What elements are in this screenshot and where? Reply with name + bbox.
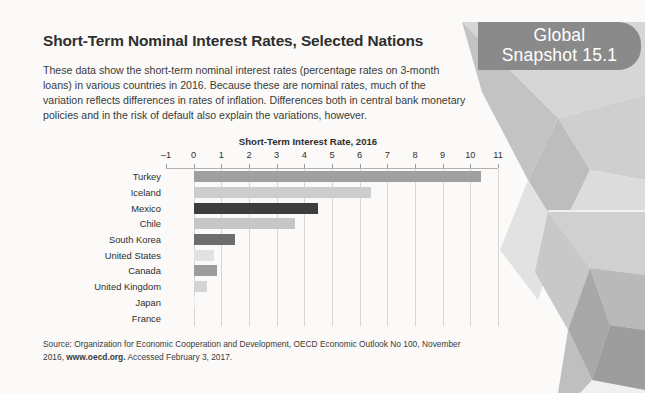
gridline <box>498 169 499 326</box>
x-axis-tick-labels: –101234567891011 <box>166 150 498 163</box>
x-tick-mark <box>332 164 333 168</box>
y-axis-category-labels: TurkeyIcelandMexicoChileSouth KoreaUnite… <box>43 169 161 326</box>
category-row: Mexico <box>43 200 161 216</box>
x-tick-label: 3 <box>274 150 279 160</box>
x-tick-mark <box>221 164 222 168</box>
x-tick-mark <box>166 164 167 168</box>
x-tick-label: 8 <box>412 150 417 160</box>
bar[interactable] <box>194 203 319 214</box>
bar[interactable] <box>194 171 482 182</box>
category-label: South Korea <box>109 234 161 245</box>
x-tick-mark <box>470 164 471 168</box>
category-label: France <box>132 313 161 324</box>
bar-row[interactable] <box>166 310 498 326</box>
bar-row[interactable] <box>166 169 498 185</box>
bar-row[interactable] <box>166 263 498 279</box>
global-snapshot-banner: Global Snapshot 15.1 <box>478 22 641 70</box>
category-row: United States <box>43 247 161 263</box>
x-tick-mark <box>387 164 388 168</box>
page-title: Short-Term Nominal Interest Rates, Selec… <box>43 32 423 50</box>
bar-row[interactable] <box>166 232 498 248</box>
bar-row[interactable] <box>166 200 498 216</box>
x-tick-label: 1 <box>219 150 224 160</box>
source-link[interactable]: www.oecd.org. <box>66 352 125 362</box>
bar-row[interactable] <box>166 216 498 232</box>
banner-line-1: Global <box>534 26 586 46</box>
category-row: United Kingdom <box>43 279 161 295</box>
category-row: France <box>43 310 161 326</box>
source-note: Source: Organization for Economic Cooper… <box>43 338 463 363</box>
x-tick-mark <box>360 164 361 168</box>
banner-line-2: Snapshot 15.1 <box>502 46 617 66</box>
category-label: Iceland <box>131 187 161 198</box>
x-tick-mark <box>304 164 305 168</box>
bar-row[interactable] <box>166 247 498 263</box>
x-tick-label: 0 <box>191 150 196 160</box>
bar[interactable] <box>194 297 195 308</box>
bar[interactable] <box>194 265 218 276</box>
x-tick-mark <box>249 164 250 168</box>
category-row: Canada <box>43 263 161 279</box>
plot-area <box>166 169 498 326</box>
category-row: South Korea <box>43 232 161 248</box>
x-tick-label: 4 <box>302 150 307 160</box>
x-tick-mark <box>498 164 499 168</box>
x-tick-mark <box>194 164 195 168</box>
category-label: Mexico <box>131 203 161 214</box>
bar-row[interactable] <box>166 295 498 311</box>
bar[interactable] <box>194 187 371 198</box>
x-tick-label: 7 <box>385 150 390 160</box>
global-snapshot-page: Global Snapshot 15.1 Short-Term Nominal … <box>0 0 645 393</box>
x-tick-label: 5 <box>329 150 334 160</box>
x-tick-label: 2 <box>246 150 251 160</box>
x-tick-label: 10 <box>465 150 475 160</box>
bar[interactable] <box>194 250 215 261</box>
x-tick-mark <box>415 164 416 168</box>
category-label: Japan <box>135 297 161 308</box>
bar-rows <box>166 169 498 326</box>
category-row: Iceland <box>43 185 161 201</box>
bar[interactable] <box>194 281 208 292</box>
bar-chart: Short-Term Interest Rate, 2016 –10123456… <box>43 136 498 326</box>
source-text-part-2: Accessed February 3, 2017. <box>126 352 233 362</box>
category-label: United States <box>105 250 161 261</box>
chart-title: Short-Term Interest Rate, 2016 <box>163 136 453 147</box>
intro-paragraph: These data show the short-term nominal i… <box>43 63 468 123</box>
bar[interactable] <box>194 234 236 245</box>
x-tick-label: 11 <box>493 150 503 160</box>
bar-row[interactable] <box>166 279 498 295</box>
bar-row[interactable] <box>166 185 498 201</box>
category-label: Canada <box>128 265 161 276</box>
x-tick-label: 9 <box>440 150 445 160</box>
category-label: Turkey <box>133 171 161 182</box>
category-row: Turkey <box>43 169 161 185</box>
x-tick-mark <box>277 164 278 168</box>
category-label: United Kingdom <box>94 281 161 292</box>
category-row: Japan <box>43 295 161 311</box>
x-tick-label: –1 <box>161 150 171 160</box>
category-label: Chile <box>140 218 161 229</box>
bar[interactable] <box>194 218 295 229</box>
x-tick-label: 6 <box>357 150 362 160</box>
x-tick-mark <box>443 164 444 168</box>
category-row: Chile <box>43 216 161 232</box>
